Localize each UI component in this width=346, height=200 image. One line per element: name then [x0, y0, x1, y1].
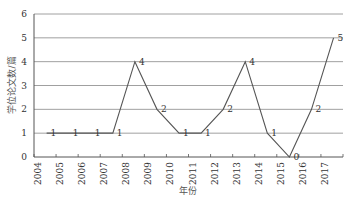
x-tick-label: 2013: [232, 162, 242, 185]
x-tick-label: 2011: [188, 162, 198, 185]
y-tick-labels: 0123456: [21, 9, 27, 162]
y-tick-label: 4: [21, 57, 27, 67]
data-label: 2: [315, 104, 321, 114]
y-tick-label: 5: [21, 33, 27, 43]
y-tick-label: 2: [21, 104, 27, 114]
x-tick-label: 2008: [121, 162, 131, 185]
data-label: 1: [117, 128, 123, 138]
x-tick-label: 2004: [33, 162, 43, 185]
x-tick-label: 2012: [210, 162, 220, 185]
gridlines: [34, 14, 343, 133]
x-tick-label: 2015: [276, 162, 286, 185]
line-chart: 0123456 20042005200620072008200920102011…: [0, 0, 346, 200]
y-tick-label: 1: [21, 128, 27, 138]
y-tick-label: 6: [21, 9, 27, 19]
data-label: 4: [249, 57, 255, 67]
y-tick-label: 0: [21, 152, 27, 162]
x-tick-labels: 2004200520062007200820092010201120122013…: [33, 162, 330, 185]
x-tick-label: 2017: [320, 162, 330, 185]
data-label: 4: [139, 57, 145, 67]
data-label: 1: [271, 128, 277, 138]
data-label: 1: [73, 128, 79, 138]
x-tick-label: 2016: [298, 162, 308, 185]
series-line: [47, 38, 334, 157]
x-axis-title: 年份: [179, 185, 197, 196]
data-label: 2: [161, 104, 167, 114]
data-label: 5: [338, 33, 344, 43]
x-tick-label: 2009: [143, 162, 153, 185]
data-label: 1: [51, 128, 57, 138]
data-label: 2: [227, 104, 233, 114]
data-label: 1: [205, 128, 211, 138]
x-tick-label: 2005: [55, 162, 65, 185]
y-tick-label: 3: [21, 81, 27, 91]
x-tick-label: 2014: [254, 162, 264, 185]
data-labels: 11114211241025: [51, 33, 344, 162]
x-tick-label: 2010: [165, 162, 175, 185]
data-series: [47, 38, 334, 157]
data-label: 1: [95, 128, 101, 138]
y-axis-title: 学位论文数/篇: [6, 56, 17, 113]
data-label: 0: [293, 152, 299, 162]
data-label: 1: [183, 128, 189, 138]
x-tick-label: 2007: [99, 162, 109, 185]
x-tick-label: 2006: [77, 162, 87, 185]
